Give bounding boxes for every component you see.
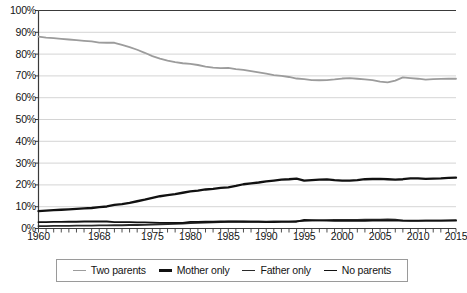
y-axis-tick-label: 20% <box>0 179 36 189</box>
legend-item-label: Mother only <box>177 265 230 276</box>
y-axis-tick-label: 40% <box>0 136 36 146</box>
x-axis-tick-label: 2015 <box>445 231 467 242</box>
x-axis-tick-label: 1985 <box>217 231 240 242</box>
legend-item-label: Father only <box>260 265 310 276</box>
legend-item-label: No parents <box>342 265 391 276</box>
y-axis-tick-labels: 0%10%20%30%40%50%60%70%80%90%100% <box>0 0 36 250</box>
x-axis-tick-label: 1968 <box>88 231 111 242</box>
x-axis-tick-label: 1995 <box>293 231 316 242</box>
legend-item-label: Two parents <box>91 265 146 276</box>
y-axis-tick-label: 50% <box>0 114 36 124</box>
x-axis-tick-label: 2005 <box>369 231 392 242</box>
y-axis-tick-label: 10% <box>0 201 36 211</box>
x-axis-tick-label: 1960 <box>27 231 50 242</box>
legend-item-no-parents[interactable]: No parents <box>324 265 391 276</box>
legend-line-swatch <box>73 270 86 272</box>
legend-line-swatch <box>242 270 255 272</box>
legend-item-two-parents[interactable]: Two parents <box>73 265 146 276</box>
series-line-mother-only <box>39 178 457 211</box>
chart-legend: Two parentsMother onlyFather onlyNo pare… <box>56 259 408 282</box>
legend-line-swatch <box>159 269 172 271</box>
y-axis-tick-label: 60% <box>0 92 36 102</box>
x-axis-tick-label: 1980 <box>179 231 202 242</box>
y-axis-tick-label: 90% <box>0 27 36 37</box>
x-axis-tick-label: 1975 <box>141 231 164 242</box>
y-axis-tick-label: 70% <box>0 70 36 80</box>
legend-item-mother-only[interactable]: Mother only <box>159 265 230 276</box>
legend-line-swatch <box>324 270 337 272</box>
series-line-no-parents <box>39 220 457 223</box>
y-axis-tick-label: 80% <box>0 49 36 59</box>
y-axis-tick-label: 30% <box>0 158 36 168</box>
x-axis-tick-labels: 1960196819751980198519901995200020052010… <box>0 231 465 249</box>
chart-svg <box>0 0 465 250</box>
x-axis-tick-label: 1990 <box>255 231 278 242</box>
x-axis-tick-label: 2000 <box>331 231 354 242</box>
y-axis-tick-label: 100% <box>0 5 36 15</box>
plot-area <box>0 0 465 250</box>
legend-item-father-only[interactable]: Father only <box>242 265 310 276</box>
x-axis-tick-label: 2010 <box>407 231 430 242</box>
